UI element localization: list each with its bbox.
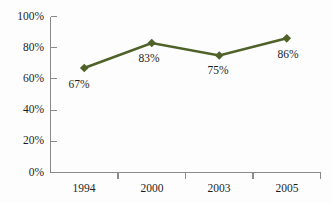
series-markers (80, 34, 291, 72)
x-tick-label-2005: 2005 (257, 182, 317, 194)
data-point-marker (282, 34, 291, 43)
line-chart: 100% 80% 60% 40% 20% 0% 1994 2000 2003 2… (0, 0, 332, 203)
y-axis-ticks (51, 17, 57, 173)
y-tick-label-0: 0% (0, 166, 44, 178)
chart-plot-area (0, 0, 332, 203)
y-tick-label-20: 20% (0, 134, 44, 146)
data-point-marker (215, 51, 224, 60)
x-tick-label-1994: 1994 (54, 182, 114, 194)
y-tick-label-100: 100% (0, 10, 44, 22)
data-label-2005: 86% (269, 48, 307, 60)
data-label-2000: 83% (130, 52, 168, 64)
series-line-path (84, 38, 287, 68)
data-point-marker (80, 64, 89, 73)
y-tick-label-40: 40% (0, 103, 44, 115)
data-point-marker (147, 39, 156, 48)
x-axis-ticks (118, 173, 321, 180)
y-tick-label-60: 60% (0, 72, 44, 84)
x-tick-label-2000: 2000 (122, 182, 182, 194)
y-tick-label-80: 80% (0, 41, 44, 53)
data-label-2003: 75% (199, 64, 237, 76)
x-tick-label-2003: 2003 (189, 182, 249, 194)
data-label-1994: 67% (60, 78, 98, 90)
